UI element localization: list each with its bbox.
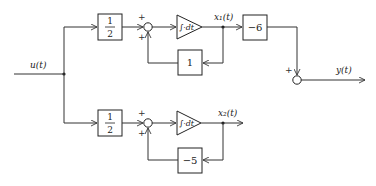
- upper-gain-block: 1 2: [98, 14, 122, 40]
- lower-sum-junction: [144, 119, 152, 127]
- lower-sum-sign-bottom: +: [138, 128, 146, 138]
- lower-gain-denominator: 2: [107, 125, 113, 135]
- upper-sum-sign-bottom: +: [138, 32, 146, 42]
- output-gain-block: −6: [243, 15, 267, 40]
- output-gain: −6: [248, 22, 263, 33]
- upper-gain-numerator: 1: [107, 16, 113, 26]
- output-sum-sign: +: [285, 65, 293, 75]
- upper-sum-junction: [144, 23, 152, 31]
- input-label: u(t): [30, 60, 47, 70]
- lower-feedback-gain: −5: [183, 155, 198, 166]
- upper-feedback-return: [148, 32, 178, 63]
- x2-label: x₂(t): [218, 108, 238, 118]
- output-label: y(t): [335, 65, 352, 75]
- block-diagram: u(t) 1 2 + + ∫·dt x₁(t) 1 −6 + y(t) 1: [0, 0, 376, 186]
- upper-integrator-label: ∫·dt: [179, 23, 195, 32]
- upper-integrator-block: ∫·dt: [177, 15, 202, 39]
- lower-integrator-label: ∫·dt: [179, 119, 195, 128]
- lower-gain-numerator: 1: [107, 112, 113, 122]
- x1-label: x₁(t): [214, 12, 234, 22]
- upper-sum-sign-top: +: [138, 12, 146, 22]
- upper-gain-denominator: 2: [107, 29, 113, 39]
- lower-integrator-block: ∫·dt: [177, 111, 201, 135]
- lower-feedback-return: [148, 128, 178, 160]
- upper-feedback-gain: 1: [187, 57, 193, 68]
- output-sum-junction: [293, 76, 301, 84]
- lower-feedback-block: −5: [178, 148, 202, 173]
- upper-feedback-block: 1: [178, 50, 202, 75]
- lower-sum-sign-top: +: [138, 108, 146, 118]
- lower-gain-block: 1 2: [98, 110, 122, 136]
